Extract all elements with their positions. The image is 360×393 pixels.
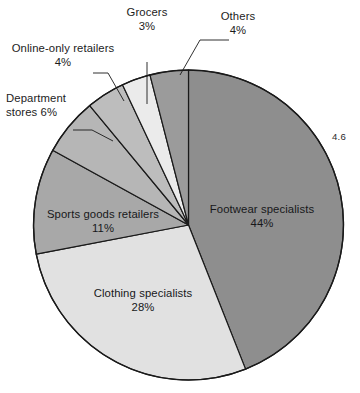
slice-label-footwear-name: Footwear specialists [196,202,328,216]
slice-label-sports-name: Sports goods retailers [33,207,173,221]
callout-others-value: 4% [198,24,278,38]
slice-label-sports-value: 11% [33,221,173,235]
callout-online-only-value: 4% [4,56,122,70]
pie-chart-figure: Grocers 3% Others 4% Online-only retaile… [0,0,360,393]
slice-label-footwear-value: 44% [196,216,328,230]
callout-grocers: Grocers 3% [92,6,202,33]
callout-grocers-name: Grocers [92,6,202,20]
figure-corner-number: 4.6 [332,131,346,142]
slice-label-clothing-name: Clothing specialists [78,286,208,300]
callout-department-stores: Department stores 6% [6,92,106,119]
callout-online-only-retailers: Online-only retailers 4% [4,42,122,69]
callout-department-stores-line2: stores 6% [6,106,106,120]
callout-online-only-name: Online-only retailers [4,42,122,56]
callout-others-name: Others [198,10,278,24]
callout-grocers-value: 3% [92,20,202,34]
callout-department-stores-line1: Department [6,92,106,106]
slice-label-sports-goods-retailers: Sports goods retailers 11% [33,207,173,235]
slice-label-clothing-specialists: Clothing specialists 28% [78,286,208,314]
slice-label-footwear-specialists: Footwear specialists 44% [196,202,328,230]
slice-label-clothing-value: 28% [78,300,208,314]
callout-others: Others 4% [198,10,278,37]
